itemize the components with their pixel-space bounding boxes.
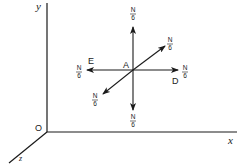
- vector-front: [103, 70, 133, 94]
- magnitude-front-den: 6: [93, 100, 97, 107]
- origin-label: O: [35, 123, 42, 133]
- x-axis-label: x: [227, 134, 233, 146]
- y-axis-label: y: [35, 0, 41, 12]
- coordinate-axes: y x z O: [9, 0, 237, 163]
- z-axis-label: z: [18, 154, 23, 163]
- diagram-canvas: y x z O A D E N 6 N 6: [0, 0, 241, 166]
- magnitude-back-den: 6: [168, 44, 172, 51]
- force-diagram: y x z O A D E N 6 N 6: [0, 0, 241, 166]
- magnitude-front-num: N: [93, 92, 98, 99]
- magnitude-down-num: N: [131, 113, 136, 120]
- magnitude-right-den: 6: [183, 72, 187, 79]
- magnitude-up-den: 6: [131, 14, 135, 21]
- magnitude-left: N 6: [76, 64, 82, 79]
- magnitude-down-den: 6: [131, 121, 135, 128]
- force-vectors: [87, 27, 178, 110]
- point-a-label: A: [123, 60, 129, 70]
- magnitude-right: N 6: [182, 64, 188, 79]
- magnitude-back: N 6: [167, 36, 173, 51]
- point-d-label: D: [172, 76, 179, 86]
- point-e-label: E: [88, 56, 94, 66]
- magnitude-front: N 6: [92, 92, 98, 107]
- magnitude-left-num: N: [77, 64, 82, 71]
- magnitude-right-num: N: [183, 64, 188, 71]
- magnitude-up-num: N: [131, 6, 136, 13]
- vector-back: [133, 46, 165, 70]
- magnitude-left-den: 6: [77, 72, 81, 79]
- magnitude-down: N 6: [130, 113, 136, 128]
- magnitude-back-num: N: [168, 36, 173, 43]
- z-axis: [9, 132, 47, 163]
- magnitude-up: N 6: [130, 6, 136, 21]
